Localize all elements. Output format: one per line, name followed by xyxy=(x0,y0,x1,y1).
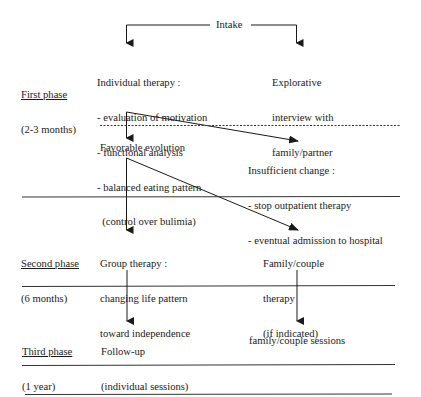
node-family-couple-therapy: Family/couple therapy (if indicated) xyxy=(263,235,324,351)
follow-up-line: Follow-up xyxy=(101,346,188,358)
individual-therapy-item: - balanced eating pattern xyxy=(97,182,207,194)
phase-third-name: Third phase xyxy=(22,346,72,358)
node-favorable-evolution: Favorable evolution xyxy=(100,142,185,154)
explorative-line: Explorative xyxy=(272,77,334,89)
family-therapy-line: Family/couple xyxy=(263,258,324,270)
insufficient-change-title: Insufficient change : xyxy=(248,165,383,177)
phase-divider-3 xyxy=(22,365,395,366)
individual-therapy-item: - evaluation of motivation xyxy=(97,112,207,124)
phase-first-duration: (2-3 months) xyxy=(21,124,76,136)
phase-third-duration: (1 year) xyxy=(22,381,72,393)
intake-label: Intake xyxy=(216,19,242,31)
intake-to-explorative-arrow xyxy=(251,25,297,43)
follow-up-line: (individual sessions) xyxy=(101,381,188,393)
phase-divider-4 xyxy=(25,394,392,395)
family-therapy-line: therapy xyxy=(263,293,324,305)
phase-first: First phase (2-3 months) xyxy=(21,66,76,147)
phase-second-duration: (6 months) xyxy=(21,293,79,305)
group-therapy-line: Group therapy : xyxy=(100,258,190,270)
insufficient-change-item: - stop outpatient therapy xyxy=(248,200,383,212)
intake-to-individual-arrow xyxy=(127,25,211,43)
explorative-line: interview with xyxy=(272,112,334,124)
phase-second-name: Second phase xyxy=(21,258,79,270)
group-therapy-line: changing life pattern xyxy=(100,293,190,305)
phase-second: Second phase (6 months) xyxy=(21,235,79,316)
individual-therapy-title: Individual therapy : xyxy=(97,77,207,89)
phase-third: Third phase (1 year) xyxy=(22,323,72,397)
node-follow-up: Follow-up (individual sessions) xyxy=(101,323,188,397)
individual-therapy-item: (control over bulimia) xyxy=(97,216,207,228)
node-family-couple-sessions: family/couple sessions xyxy=(249,335,345,347)
phase-first-name: First phase xyxy=(21,89,76,101)
